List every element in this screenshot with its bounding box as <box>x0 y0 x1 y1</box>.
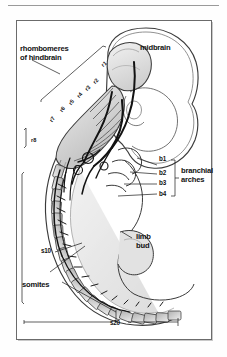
hindbrain-rhombomere-group <box>56 86 124 169</box>
somite-20-label: s20 <box>110 319 120 326</box>
rhombomeres-title-label: rhombomeres of hindbrain <box>20 45 82 62</box>
somites-label: somites <box>22 281 49 290</box>
branchial-arch-label-b1: b1 <box>159 155 166 162</box>
somite-segment <box>156 313 170 323</box>
figure-page: rhombomeres of hindbrain midbrain r1 r2 … <box>0 0 227 357</box>
somites-range-line <box>24 320 112 324</box>
rhombomere-label-r8: r8 <box>31 137 36 143</box>
forebrain-vesicle-outline <box>130 88 178 151</box>
trunk-body-group <box>45 158 194 325</box>
somite-10-label: s10 <box>41 247 51 254</box>
branchial-arches-label: branchial arches <box>181 167 221 184</box>
midbrain-label: midbrain <box>140 44 170 53</box>
branchial-arch-label-b4: b4 <box>159 190 166 197</box>
branchial-arch-4-shape <box>106 185 126 192</box>
rhombomeres-title-leader <box>32 60 60 74</box>
b1-leader <box>137 158 157 165</box>
branchial-arch-group <box>106 148 142 192</box>
branchial-arch-1-shape <box>118 148 142 174</box>
branchial-arch-label-b3: b3 <box>159 179 166 186</box>
somite-segment <box>168 311 181 320</box>
branchial-arches-bracket <box>171 160 179 196</box>
limb-bud-label: limb bud <box>136 233 168 250</box>
r8-bracket <box>24 128 26 148</box>
b4-leader <box>118 194 157 196</box>
branchial-arch-label-b2: b2 <box>159 169 166 176</box>
branchial-arch-3-shape <box>108 173 129 180</box>
hindbrain-body <box>56 86 124 169</box>
